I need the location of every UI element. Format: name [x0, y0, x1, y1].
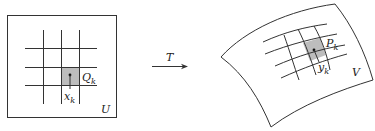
label-pk: Pk: [325, 37, 338, 52]
label-t: T: [166, 51, 175, 64]
transformation-diagram: Qk xk U T Pk y: [0, 0, 375, 131]
grid-lines-v: [263, 24, 347, 80]
region-v: [221, 4, 373, 127]
grid-lines-u: [25, 30, 97, 104]
label-qk: Qk: [82, 71, 96, 86]
mapping-arrow: [152, 64, 188, 69]
label-xk: xk: [64, 90, 75, 105]
label-v: V: [352, 66, 361, 79]
label-yk: yk: [317, 61, 329, 76]
label-u: U: [101, 103, 111, 116]
diagram-svg: Qk xk U T Pk y: [0, 0, 375, 131]
surface-v-border: [221, 4, 373, 127]
